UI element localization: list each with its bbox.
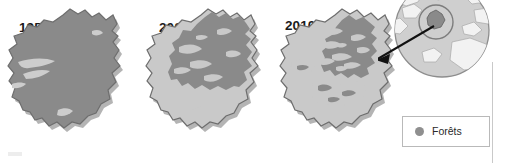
borneo-map-2000 (138, 0, 288, 163)
deforestation-figure: 1950 2000 (0, 0, 506, 163)
circle-marker-icon (415, 127, 424, 136)
map-panel-2000: 2000 (138, 0, 288, 163)
globe-svg (378, 0, 506, 92)
corner-artifact (8, 152, 22, 156)
legend-label: Forêts (432, 126, 462, 137)
borneo-map-1950 (0, 0, 150, 163)
legend-box: Forêts (402, 116, 490, 147)
map-panel-1950: 1950 (0, 0, 150, 163)
vertical-divider (492, 62, 493, 163)
globe-inset (378, 0, 506, 92)
